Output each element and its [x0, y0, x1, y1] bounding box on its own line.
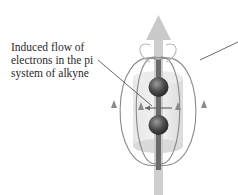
label-line-1: Induced flow of [11, 41, 93, 54]
carbon-atom-bottom [149, 115, 169, 135]
label-line-2: electrons in the pi [11, 54, 93, 67]
diagram-canvas: Induced flow of electrons in the pi syst… [0, 0, 238, 195]
right-label-leader-line [200, 42, 238, 60]
induced-flow-label: Induced flow of electrons in the pi syst… [11, 41, 93, 80]
label-line-3: system of alkyne [11, 67, 93, 80]
carbon-atom-top [149, 77, 169, 97]
magnetic-field-diagram [0, 0, 238, 195]
